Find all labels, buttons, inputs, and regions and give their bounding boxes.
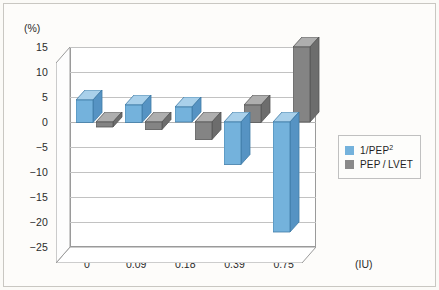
y-axis-tick-label: 10 <box>0 66 48 78</box>
y-axis-tick-label: −25 <box>0 241 48 253</box>
legend-label-series-1: 1/PEP2 <box>360 144 393 156</box>
gray-swatch-icon <box>345 160 354 169</box>
bar <box>293 47 310 122</box>
y-axis-tick-label: −10 <box>0 166 48 178</box>
legend-label-series-2: PEP / LVET <box>360 159 413 170</box>
bar-3d-shape <box>125 95 153 125</box>
bar-3d-shape <box>293 37 321 124</box>
legend: 1/PEP2 PEP / LVET <box>338 135 421 179</box>
blue-swatch-icon <box>345 146 354 155</box>
bar <box>175 107 192 122</box>
legend-item-series-1[interactable]: 1/PEP2 <box>345 144 413 156</box>
bar-series-group <box>56 47 316 247</box>
y-axis-tick-label: 15 <box>0 41 48 53</box>
bar <box>125 105 142 123</box>
bar-3d-shape <box>224 112 252 167</box>
bar-3d-shape <box>76 90 104 125</box>
bar <box>76 100 93 123</box>
y-axis-tick-label: −20 <box>0 216 48 228</box>
chart-figure: (%) (IU) 151050−5−10−15−20−25 00.090.180… <box>0 0 439 290</box>
plot-area <box>56 47 316 247</box>
legend-item-series-2[interactable]: PEP / LVET <box>345 159 413 170</box>
x-axis-unit-label: (IU) <box>355 258 373 270</box>
y-axis-tick-label: 5 <box>0 91 48 103</box>
y-axis-tick-label: −5 <box>0 141 48 153</box>
y-axis-tick-label: −15 <box>0 191 48 203</box>
y-axis-unit-label: (%) <box>24 22 40 34</box>
bar <box>195 122 212 140</box>
bar <box>273 122 290 232</box>
y-axis-tick-label: 0 <box>0 116 48 128</box>
bar-3d-shape <box>273 112 301 234</box>
bar-3d-shape <box>175 97 203 124</box>
bar <box>224 122 241 165</box>
